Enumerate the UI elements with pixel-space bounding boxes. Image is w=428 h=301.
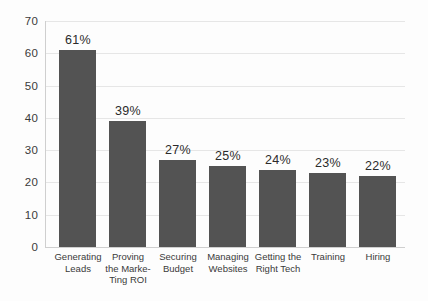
bar[interactable] [309,173,346,247]
x-axis-category-labels: GeneratingLeadsProvingthe Marke-Ting ROI… [46,251,405,299]
bar[interactable] [109,121,146,247]
y-tick-label-10: 10 [0,209,38,221]
x-category-label-line: Ting ROI [99,274,157,286]
bar-slot: 27% [153,21,203,247]
y-tick-label-70: 70 [0,15,38,27]
bar-value-label: 22% [353,159,403,173]
bar[interactable] [159,160,196,247]
bar-slot: 22% [353,21,403,247]
bar-slot: 24% [253,21,303,247]
y-tick-label-30: 30 [0,144,38,156]
y-tick-label-60: 60 [0,47,38,59]
x-category-label-line: Right Tech [249,263,307,275]
bar-slot: 39% [103,21,153,247]
bar[interactable] [59,50,96,247]
gridline-0 [46,247,405,248]
bar[interactable] [209,166,246,247]
bar-value-label: 24% [253,153,303,167]
bar-value-label: 23% [303,156,353,170]
y-tick-label-0: 0 [0,241,38,253]
bar-value-label: 39% [103,104,153,118]
bar-value-label: 25% [203,149,253,163]
y-axis-tick-labels: 706050403020100 [0,21,38,247]
x-category-label: Hiring [349,251,407,263]
bar-value-label: 61% [53,33,103,47]
bar-slot: 25% [203,21,253,247]
bar-value-label: 27% [153,143,203,157]
x-category-label-line: Hiring [349,251,407,263]
bar-slot: 61% [53,21,103,247]
y-tick-label-50: 50 [0,80,38,92]
y-tick-label-40: 40 [0,112,38,124]
bar[interactable] [359,176,396,247]
plot-area: 61%39%27%25%24%23%22% [46,21,405,247]
y-tick-label-20: 20 [0,176,38,188]
bar-chart: 706050403020100 61%39%27%25%24%23%22% Ge… [0,0,428,301]
bar-slot: 23% [303,21,353,247]
bar[interactable] [259,170,296,247]
